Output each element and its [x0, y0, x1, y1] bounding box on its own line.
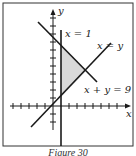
- label-x-plus-y-equals-9: x + y = 9: [84, 84, 132, 95]
- figure-caption: Figure 30: [0, 148, 136, 156]
- label-x-equals-1: x = 1: [65, 28, 92, 39]
- y-axis-label: y: [57, 5, 64, 16]
- figure-30: y x x = 1 x = y x + y = 9 Figure 30: [0, 0, 136, 156]
- label-x-equals-y: x = y: [97, 40, 123, 51]
- graph-canvas: y x x = 1 x = y x + y = 9: [0, 0, 136, 156]
- x-axis-label: x: [126, 108, 132, 119]
